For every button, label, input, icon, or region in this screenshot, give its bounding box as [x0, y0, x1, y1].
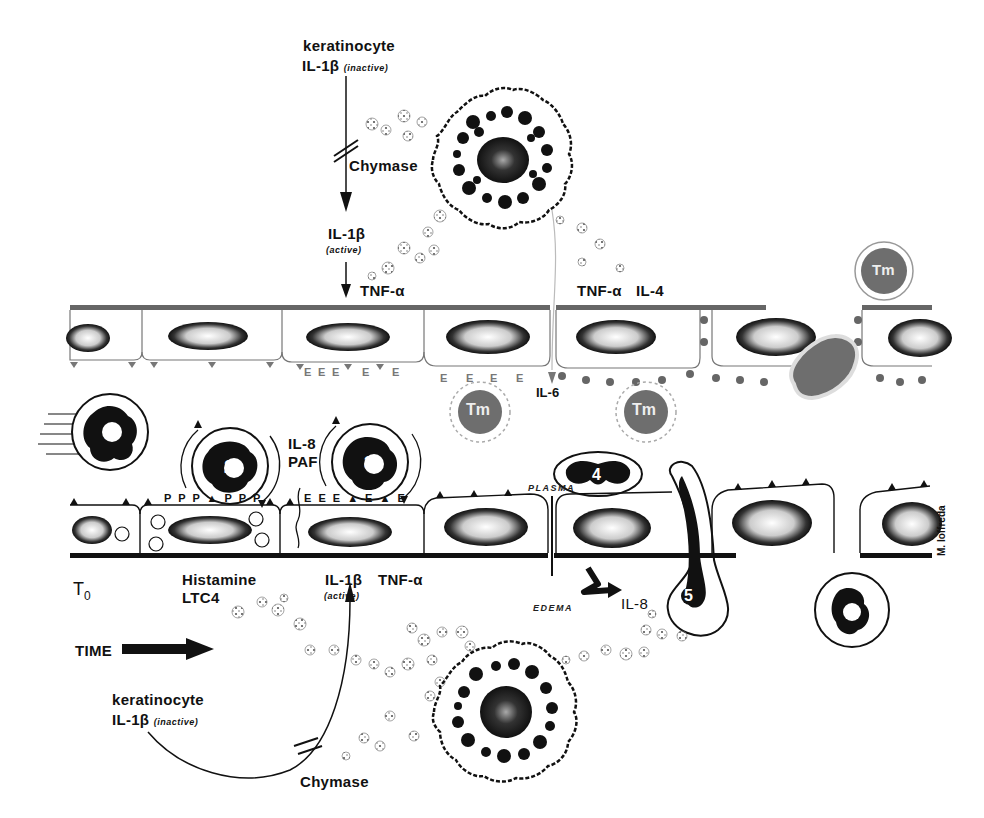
- leukocyte-3-number: 3: [364, 454, 374, 472]
- il6-label: IL-6: [536, 386, 559, 399]
- bottom-result-label: TNF-α: [378, 572, 423, 587]
- svg-text:E: E: [362, 366, 369, 378]
- svg-text:E: E: [440, 372, 447, 384]
- mast-cell-bottom: [433, 641, 577, 781]
- top-result-label: TNF-α: [360, 283, 405, 298]
- mast-cell-top: [432, 88, 572, 228]
- il8-label-lower: IL-8: [621, 596, 648, 611]
- e-markers: E E E ▲ E ▲ E: [304, 493, 407, 504]
- upper-cytokine-tnf: TNF-α: [577, 283, 622, 298]
- time-origin-label: T0: [73, 580, 91, 602]
- mediator-il8: IL-8: [288, 436, 316, 451]
- leukocyte-5: [668, 462, 728, 636]
- tm-label-2: Tm: [632, 402, 656, 418]
- svg-text:E: E: [516, 372, 523, 384]
- mediator-histamine: Histamine: [182, 572, 256, 587]
- time-origin: T: [73, 579, 84, 599]
- time-arrow-shaft: [122, 644, 188, 654]
- svg-text:E: E: [304, 366, 311, 378]
- leukocyte-2-number: 2: [224, 458, 234, 476]
- leukocyte-5-number: 5: [684, 588, 693, 604]
- bottom-product-state: (active): [324, 592, 360, 601]
- bottom-precursor: IL-1β: [112, 711, 149, 728]
- upper-cytokine-il4: IL-4: [636, 283, 664, 298]
- mediator-paf: PAF: [288, 454, 318, 469]
- time-arrow-head-icon: [186, 638, 214, 660]
- arrow-head-icon: [341, 284, 351, 298]
- diagram-canvas: EEE E E EEEE: [0, 0, 984, 818]
- time-label: TIME: [75, 643, 112, 658]
- edema-label: EDEMA: [533, 604, 573, 613]
- top-product-state: (active): [326, 246, 362, 255]
- svg-text:E: E: [466, 372, 473, 384]
- leukocyte-6-number: 6: [846, 602, 856, 620]
- bottom-precursor-label: IL-1β (inactive): [112, 712, 198, 727]
- time-origin-sub: 0: [84, 589, 91, 603]
- top-pathway: [334, 76, 358, 298]
- illustrator-credit: M. Ioffreda: [936, 505, 947, 556]
- leukocyte-4-number: 4: [592, 467, 601, 483]
- top-precursor-state: (inactive): [344, 63, 389, 73]
- top-source-label: keratinocyte: [303, 38, 395, 53]
- tm-label-3: Tm: [872, 262, 895, 277]
- svg-text:E: E: [332, 366, 339, 378]
- leukocyte-1-number: 1: [104, 424, 114, 442]
- bottom-enzyme-label: Chymase: [300, 774, 369, 789]
- plasma-label: PLASMA: [528, 484, 575, 493]
- svg-text:E: E: [318, 366, 325, 378]
- top-enzyme-label: Chymase: [349, 158, 418, 173]
- mediator-ltc4: LTC4: [182, 590, 220, 605]
- tm-label-1: Tm: [466, 402, 490, 418]
- top-product-label: IL-1β: [328, 226, 365, 241]
- top-precursor-label: IL-1β (inactive): [302, 58, 388, 73]
- leukocyte-1: [38, 394, 148, 470]
- svg-text:E: E: [392, 366, 399, 378]
- granules-top: [366, 110, 624, 280]
- bottom-precursor-state: (inactive): [154, 717, 199, 727]
- bottom-source-label: keratinocyte: [112, 692, 204, 707]
- granules-bottom: [232, 594, 687, 760]
- arrow-head-icon: [340, 192, 352, 212]
- p-markers: P P P ▲ P P P: [164, 493, 262, 504]
- top-precursor: IL-1β: [302, 57, 339, 74]
- svg-text:E: E: [490, 372, 497, 384]
- bottom-product-label: IL-1β: [325, 572, 362, 587]
